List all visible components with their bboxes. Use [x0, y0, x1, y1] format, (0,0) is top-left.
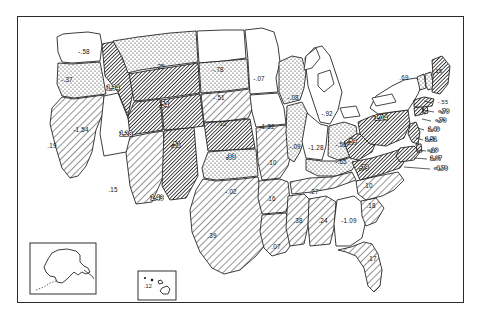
- state-value-label-wv: .59: [347, 138, 357, 145]
- state-value-label-wy: .54: [159, 101, 169, 108]
- state-value-label-tn: .27: [309, 188, 319, 195]
- state-ma[interactable]: [414, 97, 434, 107]
- state-value-label-in: -1.28: [308, 144, 324, 151]
- state-value-label-nh: -.55: [438, 99, 448, 105]
- state-value-label-mn: -.07: [253, 75, 265, 82]
- state-value-label-ma: -.78: [439, 108, 449, 114]
- aleutian-chain: [36, 281, 56, 290]
- state-value-label-id: 1.34: [106, 84, 119, 91]
- alaska-shape: [44, 249, 90, 283]
- state-value-label-co: .51: [171, 141, 181, 148]
- state-ne[interactable]: [201, 89, 254, 122]
- state-me[interactable]: [432, 56, 450, 94]
- state-value-label-fl: .17: [367, 255, 377, 262]
- state-nd[interactable]: [197, 30, 246, 63]
- state-mn[interactable]: [245, 28, 280, 94]
- hawaii-island-kauai: [144, 277, 146, 279]
- us-states-map: -.58-.37.19-1.541.34-.25.541.28.151.43.5…: [0, 0, 482, 320]
- state-value-label-mt: -.25: [153, 63, 165, 70]
- state-ct[interactable]: [414, 106, 423, 116]
- state-value-label-wa: -.58: [78, 48, 90, 55]
- state-value-label-az: .15: [108, 186, 118, 193]
- leader-ri: [422, 119, 431, 121]
- state-ut[interactable]: [128, 99, 163, 136]
- lake-erie: [340, 106, 360, 118]
- state-value-label-ia: -1.32: [259, 123, 275, 130]
- state-value-label-ne: .12: [217, 120, 227, 127]
- state-value-label-nc: .10: [363, 182, 373, 189]
- state-value-label-ct: 1.49: [428, 126, 440, 132]
- state-value-label-wi: -.08: [287, 94, 299, 101]
- state-value-label-nv: -1.54: [73, 126, 89, 133]
- state-value-label-ca: .19: [47, 142, 57, 149]
- state-value-label-ga: -1.09: [341, 217, 357, 224]
- state-value-label-nd: -.78: [212, 66, 224, 73]
- state-value-label-hi: .12: [144, 283, 152, 289]
- state-value-label-mo: .10: [267, 159, 277, 166]
- state-value-label-ky: -.65: [335, 158, 347, 165]
- state-value-label-al: .24: [318, 217, 328, 224]
- alaska-inset-group: [30, 243, 96, 294]
- state-value-label-ok: -.02: [225, 188, 237, 195]
- state-value-label-ms: .38: [293, 217, 303, 224]
- state-value-label-vt: -.15: [432, 68, 442, 74]
- state-value-label-or: -.37: [61, 76, 73, 83]
- hawaii-island-maui: [158, 280, 163, 284]
- state-value-label-mi: -.92: [321, 110, 333, 117]
- leader-me-callout: [404, 167, 430, 169]
- state-ca[interactable]: [50, 95, 104, 178]
- state-value-label-va: .79: [359, 164, 369, 171]
- state-value-label-oh: -.56: [335, 141, 347, 148]
- state-value-label-ks: .88: [226, 153, 236, 160]
- state-value-label-nj: 1.51: [425, 136, 437, 142]
- state-value-label-pa: 1.04: [374, 114, 387, 121]
- state-value-label-ny: .69: [399, 74, 409, 81]
- state-value-label-ri: -.73: [436, 117, 446, 123]
- state-value-label-sd: -.51: [213, 94, 225, 101]
- state-value-label-il: -.09: [289, 143, 301, 150]
- state-nj[interactable]: [408, 122, 420, 144]
- state-value-label-ar: .16: [266, 195, 276, 202]
- hawaii-island-bigisland: [160, 286, 170, 294]
- state-value-label-nm: 1.43: [150, 194, 163, 201]
- state-value-label-tx: .39: [207, 232, 217, 239]
- state-value-label-me: -4.78: [434, 165, 448, 171]
- state-sd[interactable]: [199, 59, 249, 93]
- state-value-label-ut: 1.28: [119, 130, 132, 137]
- state-nm[interactable]: [162, 127, 198, 200]
- choropleth-map-figure: -.58-.37.19-1.541.34-.25.541.28.151.43.5…: [0, 0, 482, 320]
- state-value-label-sc: .18: [366, 202, 376, 209]
- state-fl[interactable]: [338, 242, 382, 292]
- state-value-label-md: 1.07: [430, 155, 442, 161]
- state-value-label-de: -.19: [428, 147, 438, 153]
- state-co[interactable]: [161, 94, 204, 130]
- leader-md: [414, 158, 427, 159]
- hawaii-island-oahu: [151, 279, 154, 282]
- state-value-label-la: .07: [271, 243, 281, 250]
- state-ks[interactable]: [204, 119, 255, 151]
